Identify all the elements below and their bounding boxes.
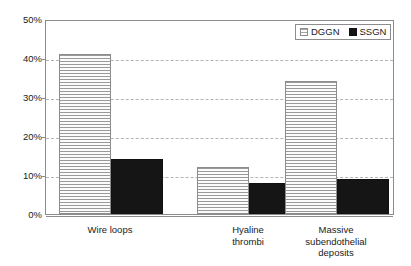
bar-ssgn-0 bbox=[111, 159, 163, 214]
y-tick-label-30: 30% bbox=[6, 93, 42, 103]
legend-swatch-dggn-icon bbox=[300, 28, 308, 36]
bar-dggn-2 bbox=[285, 81, 337, 214]
y-tick-label-40: 40% bbox=[6, 54, 42, 64]
x-axis-label-0: Wire loops bbox=[50, 224, 170, 236]
gridline-0 bbox=[46, 216, 393, 217]
x-axis-label-line: Massive bbox=[276, 224, 396, 236]
bar-dggn-0 bbox=[59, 54, 111, 214]
y-tick-label-0: 0% bbox=[6, 210, 42, 220]
legend-swatch-ssgn-icon bbox=[349, 28, 357, 36]
x-axis-label-line: deposits bbox=[276, 247, 396, 259]
y-tick-label-50: 50% bbox=[6, 15, 42, 25]
plot-inner bbox=[46, 21, 393, 214]
y-tick-label-10: 10% bbox=[6, 171, 42, 181]
legend-entry-dggn: DGGN bbox=[300, 27, 340, 37]
legend-entry-ssgn: SSGN bbox=[349, 27, 387, 37]
legend-label-ssgn: SSGN bbox=[360, 27, 387, 37]
x-axis-label-line: Wire loops bbox=[50, 224, 170, 236]
x-axis-label-2: Massivesubendothelialdeposits bbox=[276, 224, 396, 259]
bar-dggn-1 bbox=[197, 167, 249, 214]
chart-legend: DGGN SSGN bbox=[295, 24, 391, 40]
plot-area bbox=[45, 20, 394, 215]
x-axis-label-line: subendothelial bbox=[276, 236, 396, 248]
legend-label-dggn: DGGN bbox=[311, 27, 340, 37]
bar-chart: 0%10%20%30%40%50% Wire loopsHyalinethrom… bbox=[0, 0, 411, 266]
bar-ssgn-2 bbox=[337, 179, 389, 214]
y-tick-label-20: 20% bbox=[6, 132, 42, 142]
